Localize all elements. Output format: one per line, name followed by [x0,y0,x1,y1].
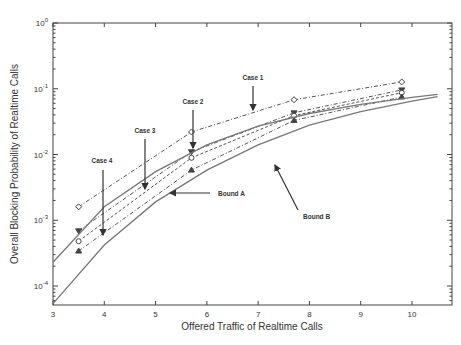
y-tick-label: 10-4 [34,280,49,291]
diamond-marker-icon [291,97,297,103]
x-tick-label: 7 [256,310,261,319]
circle-marker-icon [189,155,194,160]
series-line-case-2 [79,90,402,231]
plot-series [53,79,438,304]
plot-frame [53,23,452,305]
series-line-case-3 [79,93,402,242]
annotation-label-case-2: Case 2 [183,98,204,105]
series-line-case-4 [79,97,402,251]
x-tick-label: 8 [307,310,312,319]
x-tick-label: 6 [205,310,210,319]
annotation-label-bound-b: Bound B [303,213,330,220]
x-tick-label: 9 [358,310,363,319]
diamond-marker-icon [76,204,82,210]
diamond-marker-icon [399,79,405,85]
annotation-label-case-3: Case 3 [135,127,156,134]
x-tick-label: 4 [102,310,107,319]
y-tick-label: 100 [36,17,49,28]
x-tick-label: 5 [153,310,158,319]
annotation-label-case-1: Case 1 [243,74,264,81]
x-tick-label: 3 [51,310,56,319]
annotation-label-case-4: Case 4 [92,157,113,164]
x-axis-label: Offered Traffic of Realtime Calls [181,321,322,332]
y-axis-label: Overall Blocking Probability of Realtime… [9,64,20,264]
blocking-probability-chart: 34567891010010-110-210-310-4 Case 1Case … [0,0,461,345]
series-line-bound-a [53,97,438,304]
triangle-up-marker-icon [76,248,82,253]
annotation-label-bound-a: Bound A [218,190,245,197]
y-tick-label: 10-1 [34,83,49,94]
plot-axes: 34567891010010-110-210-310-4 [34,17,452,319]
x-tick-label: 10 [408,310,417,319]
series-line-bound-b [53,94,438,262]
y-tick-label: 10-3 [34,214,49,225]
circle-marker-icon [76,239,81,244]
arrow-icon [275,165,298,210]
y-tick-label: 10-2 [34,149,49,160]
